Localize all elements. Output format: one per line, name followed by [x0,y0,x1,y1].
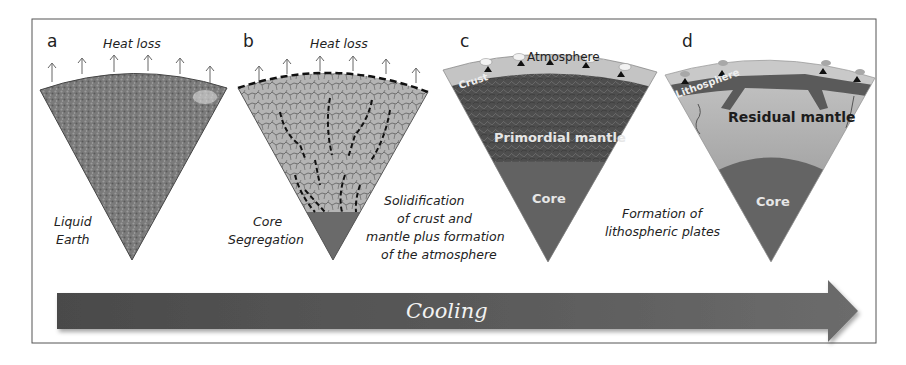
panel-a-caption-line2: Earth [56,232,90,247]
panel-d-caption-line1: Formation of [622,206,703,221]
primordial-mantle-label: Primordial mantle [494,130,626,145]
panel-c-caption-line2: of crust and [397,211,472,226]
panel-c-caption-line4: of the atmosphere [381,247,497,262]
panel-b-heat-loss-label: Heat loss [310,36,368,51]
atmosphere-label: Atmosphere [527,50,600,64]
panel-c-caption-line3: mantle plus formation [366,229,505,244]
core-label-c: Core [532,191,566,206]
residual-mantle-label: Residual mantle [728,109,856,125]
panel-a-caption-line1: Liquid [54,214,92,229]
panel-a-heat-loss-label: Heat loss [103,36,161,51]
core-label-d: Core [756,194,790,209]
panel-b-caption-line1: Core [253,214,283,229]
panel-c-caption-line1: Solidification [384,193,465,208]
panel-d-letter: d [682,31,693,51]
panel-c-letter: c [460,31,469,51]
panel-d-caption-line2: lithospheric plates [605,224,721,239]
earth-cooling-diagram: a Heat loss Liquid Earth b Heat loss [0,0,906,365]
panel-a-letter: a [47,31,57,51]
cooling-label: Cooling [406,299,488,323]
panel-b-letter: b [243,31,254,51]
panel-b-caption-line2: Segregation [228,232,304,247]
